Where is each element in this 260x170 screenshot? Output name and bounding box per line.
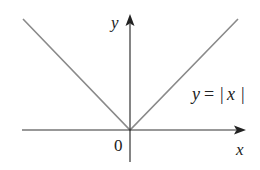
y-axis-label: y [109, 13, 119, 32]
eq-x: x [226, 84, 235, 104]
eq-equals: = [204, 84, 214, 104]
origin-label: 0 [114, 136, 123, 155]
eq-bar-left: | [220, 84, 224, 104]
function-label: y = | x | [190, 84, 245, 104]
x-axis-label: x [235, 140, 244, 159]
eq-y: y [190, 84, 200, 104]
eq-bar-right: | [241, 84, 245, 104]
absolute-value-graph: y x 0 y = | x | [0, 0, 260, 170]
